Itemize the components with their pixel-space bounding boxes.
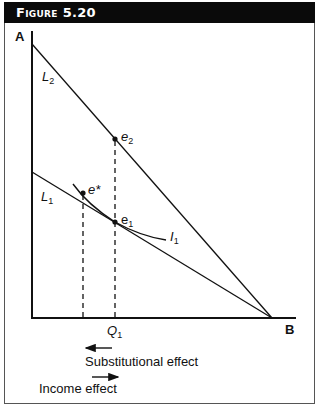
label-e2: e2 — [121, 129, 133, 146]
label-l2: L2 — [42, 69, 54, 86]
substitution-effect-label: Substitutional effect — [85, 354, 199, 369]
label-l1: L1 — [41, 189, 53, 206]
label-a: A — [15, 29, 25, 44]
income-effect-label: Income effect — [39, 381, 117, 396]
point-e1 — [112, 219, 117, 224]
economics-diagram: A B Q1 L2 L1 I1 e2 e1 e* Substitutional … — [0, 0, 318, 414]
point-e2 — [112, 136, 117, 141]
budget-line-l2 — [32, 44, 272, 318]
label-e-star: e* — [88, 182, 101, 197]
label-b: B — [285, 322, 294, 337]
point-e-star — [80, 190, 85, 195]
label-i1: I1 — [170, 229, 179, 246]
label-q1: Q1 — [107, 323, 122, 340]
indifference-curve-i1 — [73, 184, 166, 240]
budget-line-l1 — [32, 172, 272, 318]
label-e1: e1 — [121, 212, 133, 229]
